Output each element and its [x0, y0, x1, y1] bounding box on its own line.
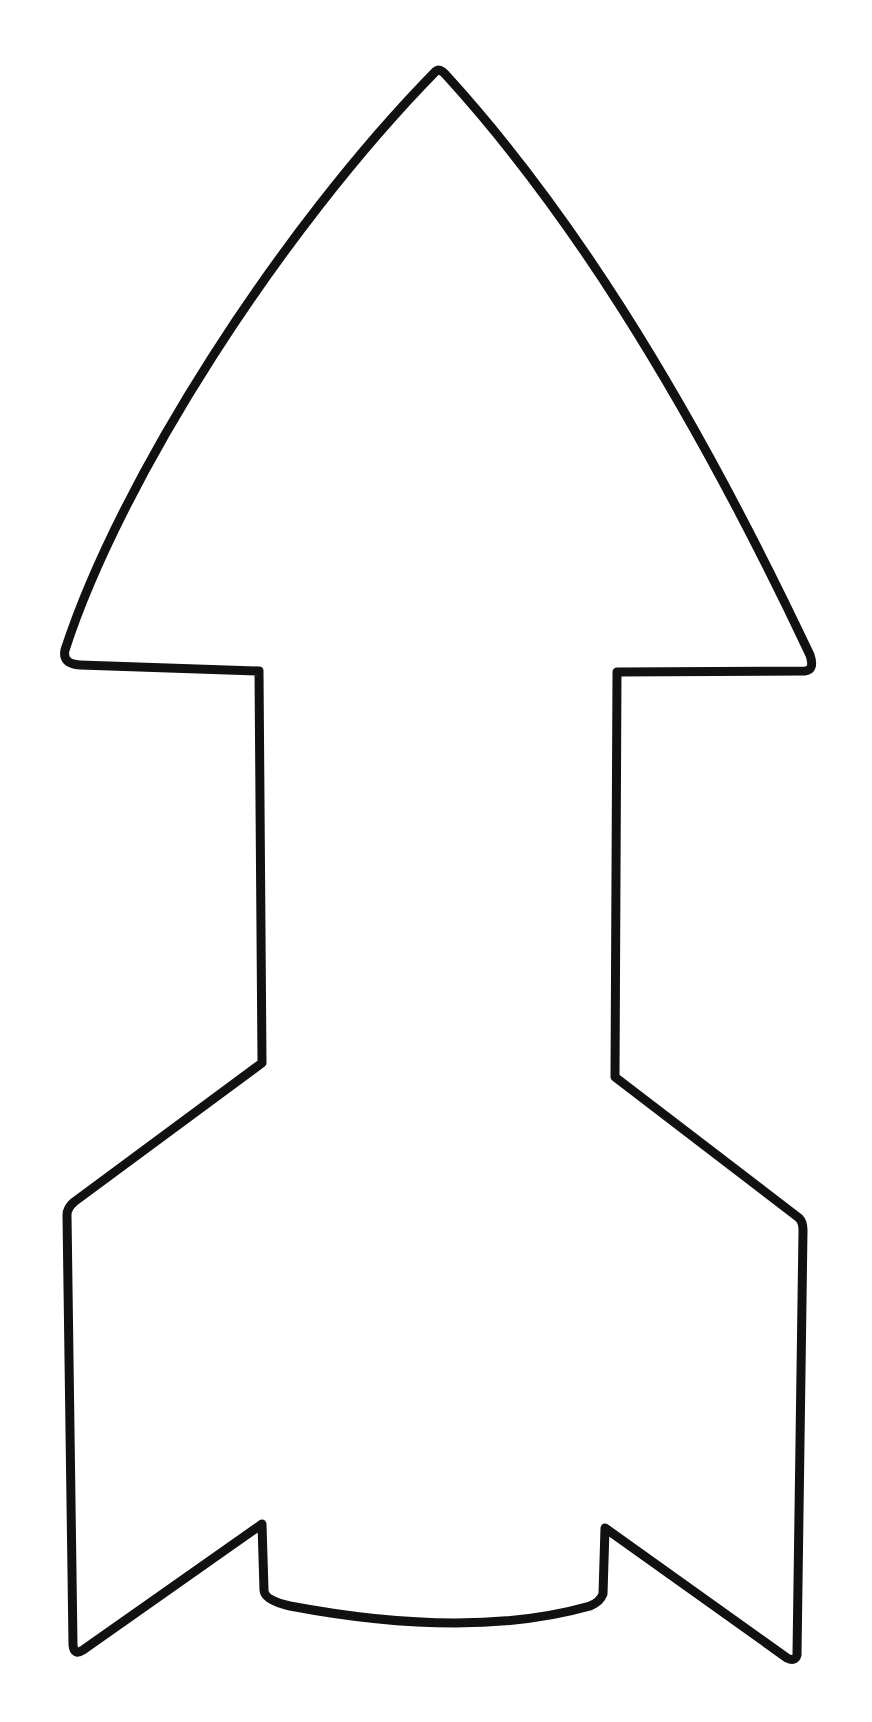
- rocket-outline-icon: [65, 70, 812, 1659]
- rocket-outline-drawing: [0, 0, 872, 1722]
- rocket-outline-canvas: [0, 0, 872, 1722]
